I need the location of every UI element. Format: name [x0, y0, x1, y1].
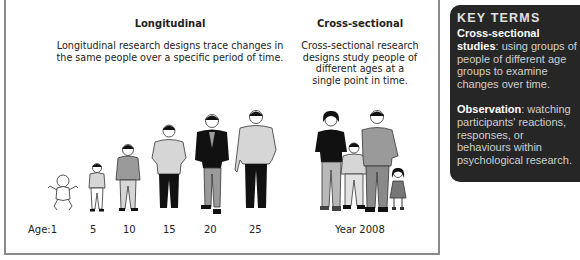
description-line: single point in time.: [300, 75, 420, 87]
age-label: 10: [123, 224, 136, 235]
age-label: 15: [163, 224, 176, 235]
family-group-figure-icon: [312, 108, 408, 216]
cross-sectional-heading: Cross-sectional: [300, 18, 420, 29]
key-terms-panel: KEY TERMS Cross-sectional studies: using…: [450, 5, 580, 182]
teen-age15-figure-icon: [150, 122, 188, 214]
child-age5-figure-icon: [86, 162, 108, 214]
age-label: 20: [204, 224, 217, 235]
age-label: Age:1: [28, 224, 57, 235]
adult-age25-figure-icon: [234, 108, 278, 216]
key-term-item: Observation: watching participants' reac…: [457, 103, 579, 167]
description-line: Cross-sectional research: [300, 40, 420, 52]
age-label: 25: [249, 224, 262, 235]
age-label: 5: [90, 224, 96, 235]
key-term-item: Cross-sectional studies: using groups of…: [457, 27, 579, 91]
baby-figure-icon: [46, 172, 80, 212]
year-caption: Year 2008: [335, 224, 385, 235]
key-term-name: Observation: [457, 103, 521, 115]
description-line: different ages at a: [300, 63, 420, 75]
description-line: Longitudinal research designs trace chan…: [20, 40, 320, 52]
description-line: the same people over a specific period o…: [20, 52, 320, 64]
child-age10-figure-icon: [114, 142, 142, 214]
key-terms-title: KEY TERMS: [457, 11, 580, 25]
longitudinal-heading: Longitudinal: [100, 18, 240, 29]
young-adult-age20-figure-icon: [194, 112, 230, 216]
description-line: designs study people of: [300, 52, 420, 64]
longitudinal-description: Longitudinal research designs trace chan…: [20, 40, 320, 63]
cross-sectional-description: Cross-sectional research designs study p…: [300, 40, 420, 86]
